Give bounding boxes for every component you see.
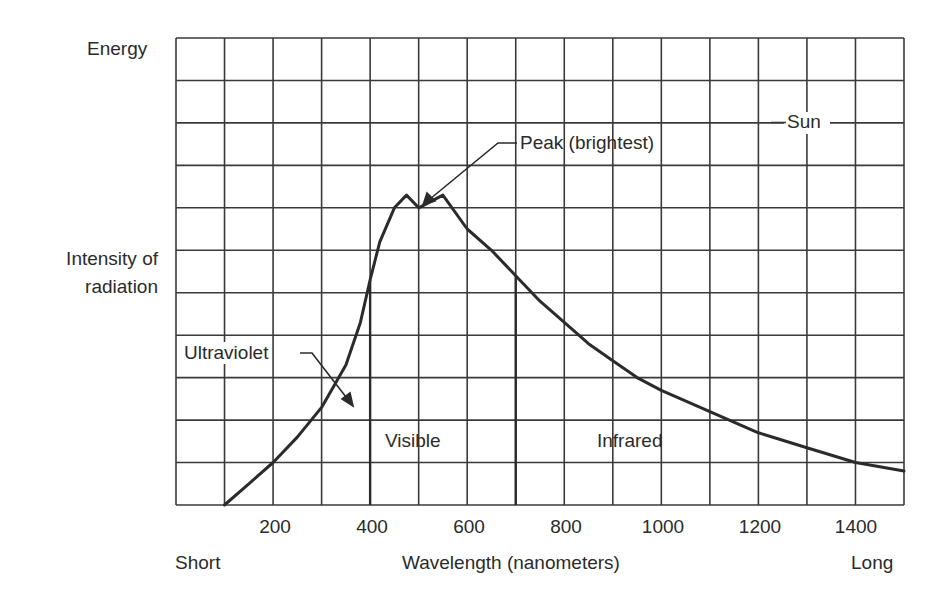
x-tick-800: 800: [526, 516, 606, 538]
visible-region-label: Visible: [385, 430, 441, 452]
chart-grid: [176, 38, 904, 505]
peak-label: Peak (brightest): [520, 132, 654, 154]
y-axis-label-line1: Intensity of: [66, 245, 158, 273]
ultraviolet-label: Ultraviolet: [182, 342, 270, 364]
x-tick-200: 200: [235, 516, 315, 538]
y-axis-label-line2: radiation: [66, 273, 158, 301]
x-tick-600: 600: [429, 516, 509, 538]
region-boundaries: [370, 276, 516, 505]
y-axis-label: Intensity of radiation: [66, 245, 158, 301]
x-tick-1400: 1400: [816, 516, 896, 538]
x-tick-1200: 1200: [720, 516, 800, 538]
sun-label: Sun: [787, 111, 821, 133]
peak-leader-arrow: [423, 143, 517, 205]
x-axis-long-label: Long: [851, 552, 893, 574]
infrared-region-label: Infrared: [597, 430, 662, 452]
x-axis-title: Wavelength (nanometers): [402, 552, 620, 574]
x-tick-400: 400: [332, 516, 412, 538]
x-tick-1000: 1000: [623, 516, 703, 538]
energy-label: Energy: [87, 38, 147, 60]
x-axis-short-label: Short: [175, 552, 220, 574]
